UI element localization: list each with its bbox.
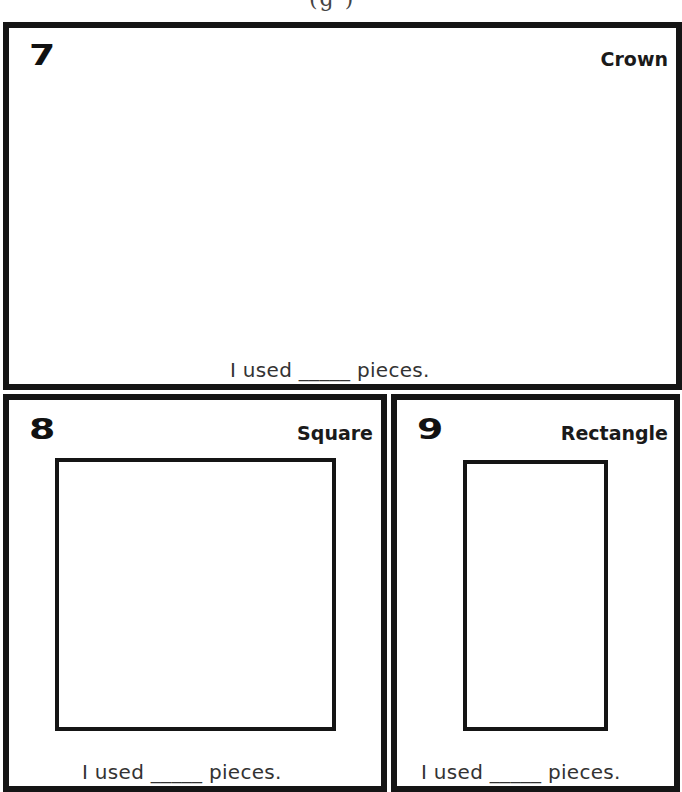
- rectangle-outline: [391, 394, 680, 792]
- puzzle-title: Rectangle: [561, 422, 668, 444]
- puzzle-panel-rectangle: 9 Rectangle I used _____ pieces.: [391, 394, 680, 792]
- puzzle-title: Square: [297, 422, 373, 444]
- pieces-used-prompt: I used _____ pieces.: [421, 760, 621, 784]
- pieces-used-prompt: I used _____ pieces.: [230, 358, 430, 382]
- puzzle-number: 8: [29, 416, 55, 444]
- puzzle-panel-square: 8 Square I used _____ pieces.: [3, 394, 387, 792]
- puzzle-title: Crown: [601, 48, 668, 70]
- puzzle-panel-crown: 7 Crown I used _____ pieces.: [3, 22, 682, 390]
- square-outline: [3, 394, 387, 792]
- puzzle-number: 9: [417, 416, 443, 444]
- pieces-used-prompt: I used _____ pieces.: [82, 760, 282, 784]
- cropped-header-text: ʻ(g ): [300, 0, 355, 11]
- puzzle-number: 7: [29, 42, 55, 70]
